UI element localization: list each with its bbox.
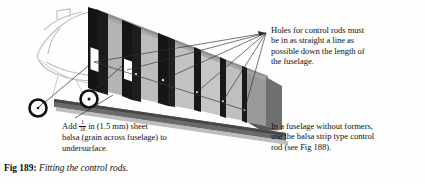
figure-title-text: Fitting the control rods. [39,163,128,173]
balsa-note-line-2: balsa (grain across fuselage) to [62,132,167,142]
holes-note-line-4: the fuselage. [271,56,365,66]
balsa-note-prefix: Add [62,121,79,131]
former-4 [194,47,201,112]
fuselage-without-formers-note: In a fuselage without formers, use the b… [271,121,374,152]
holes-note-line-2: be in as straight a line as [271,35,365,45]
former-6 [242,66,247,123]
nose-side-seam [44,12,82,30]
holes-for-control-rods-note: Holes for control rods must be in as str… [271,25,365,67]
formers-note-line-1: In a fuselage without formers, [271,121,374,131]
former-2-hole-b [135,73,137,75]
formers-note-line-2: use the balsa strip type control [271,131,374,141]
nose-outline-group [37,9,96,81]
former-3 [158,33,168,106]
former-1-cutout [91,47,99,72]
formers-note-line-3: rod (see Fig 188). [271,142,374,152]
fraction-one-sixteenth: 116 [79,120,85,132]
former-5 [220,57,226,118]
figure-caption: Fig 189: Fitting the control rods. [4,163,128,173]
figure-page: Holes for control rods must be in as str… [0,0,425,184]
balsa-note-line-1: Add 116 in (1.5 mm) sheet [62,120,167,132]
former-3-face [168,37,175,107]
hole-detail-dot-right [88,98,91,101]
figure-number: Fig 189: [4,163,37,173]
holes-note-line-1: Holes for control rods must [271,25,365,35]
landing-gear-strut-left [52,76,58,98]
former-2-face [132,24,141,102]
cockpit-block [57,9,70,20]
balsa-note-suffix: in (1.5 mm) sheet [86,121,148,131]
add-balsa-sheet-note: Add 116 in (1.5 mm) sheet balsa (grain a… [62,120,167,153]
holes-note-line-3: possible down the length of [271,46,365,56]
balsa-note-line-3: undersurface. [62,143,167,153]
figure-title: Fitting the control rods. [37,163,129,173]
nose-top-curve [37,11,96,56]
